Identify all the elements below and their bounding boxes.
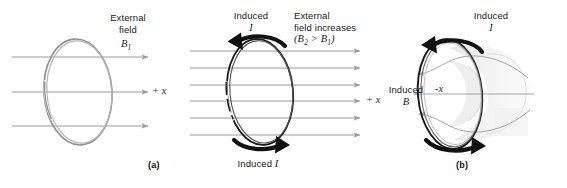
axis-label-minus-x: -x xyxy=(435,83,443,94)
caption-a: (a) xyxy=(148,160,160,170)
conducting-ring xyxy=(222,36,298,147)
induced-current-label-bottom: Induced I xyxy=(208,158,308,170)
induced-current-label-top: Induced I xyxy=(456,10,526,33)
field-lines-group xyxy=(12,57,148,126)
panel-middle: Induced I External field increases (B2 >… xyxy=(188,0,388,188)
field-symbol-b1: B1 xyxy=(121,38,131,52)
field-lines-group xyxy=(190,51,360,135)
external-field-label: External field xyxy=(96,12,160,35)
induced-current-label-top: Induced I xyxy=(216,10,286,33)
caption-b: (b) xyxy=(456,160,468,170)
physics-figure-induction: External field B1 + x (a) xyxy=(0,0,567,188)
panel-a: External field B1 + x (a) xyxy=(0,0,195,188)
axis-label-plus-x: + x xyxy=(152,85,166,96)
induced-b-label: Induced B xyxy=(376,84,436,107)
field-shading-3d xyxy=(448,46,530,141)
panel-b: Induced I Induced B -x (b) xyxy=(378,0,567,188)
